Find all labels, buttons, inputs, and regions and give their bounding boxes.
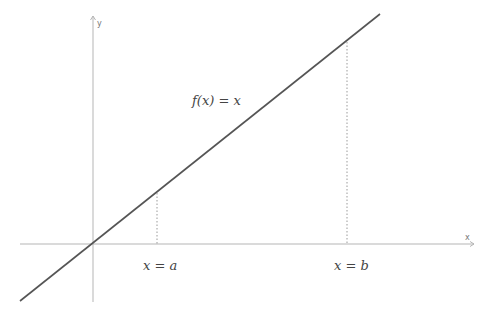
marker-a-label: x = a	[143, 258, 177, 273]
y-axis-label: y	[97, 19, 102, 28]
marker-b-label: x = b	[334, 258, 369, 273]
function-diagram: y x f(x) = x x = a x = b	[0, 0, 491, 315]
function-line	[20, 14, 380, 301]
x-axis-label: x	[465, 233, 470, 242]
function-label: f(x) = x	[191, 93, 241, 108]
